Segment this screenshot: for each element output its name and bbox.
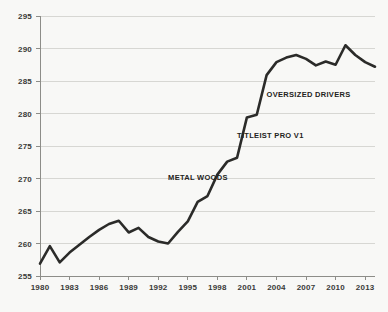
y-tick-label-285: 285 [18,77,32,86]
x-tick-label-2004: 2004 [267,283,286,292]
series-line-0 [40,45,375,263]
annotation-label-0: METAL WOODS [168,173,228,182]
x-axis [40,276,375,280]
x-tick-label-1980: 1980 [31,283,50,292]
x-tick-label-1992: 1992 [149,283,168,292]
x-tick-label-2010: 2010 [326,283,345,292]
y-tick-label-265: 265 [18,207,32,216]
x-tick-label-2007: 2007 [297,283,316,292]
y-tick-label-255: 255 [18,272,32,281]
x-tick-label-2001: 2001 [238,283,257,292]
x-tick-label-2013: 2013 [356,283,375,292]
driving-distance-line-chart: 255260265270275280285290295 198019831986… [0,0,388,312]
x-tick-label-1998: 1998 [208,283,227,292]
x-tick-label-1983: 1983 [60,283,79,292]
x-tick-label-1989: 1989 [119,283,138,292]
annotation-label-2: OVERSIZED DRIVERS [267,90,351,99]
x-axis-tick-labels: 1980198319861989199219951998200120042007… [31,283,375,292]
data-series-group [40,45,375,263]
y-axis [36,16,40,276]
y-axis-tick-labels: 255260265270275280285290295 [18,12,32,281]
gridlines-group [40,16,375,244]
y-tick-label-295: 295 [18,12,32,21]
y-tick-label-290: 290 [18,45,32,54]
chart-canvas: 255260265270275280285290295 198019831986… [0,0,388,312]
y-tick-label-270: 270 [18,175,32,184]
y-tick-label-280: 280 [18,110,32,119]
x-tick-label-1986: 1986 [90,283,109,292]
annotation-label-1: TITLEIST PRO V1 [237,131,304,140]
y-tick-label-275: 275 [18,142,32,151]
y-tick-label-260: 260 [18,240,32,249]
x-tick-label-1995: 1995 [178,283,197,292]
